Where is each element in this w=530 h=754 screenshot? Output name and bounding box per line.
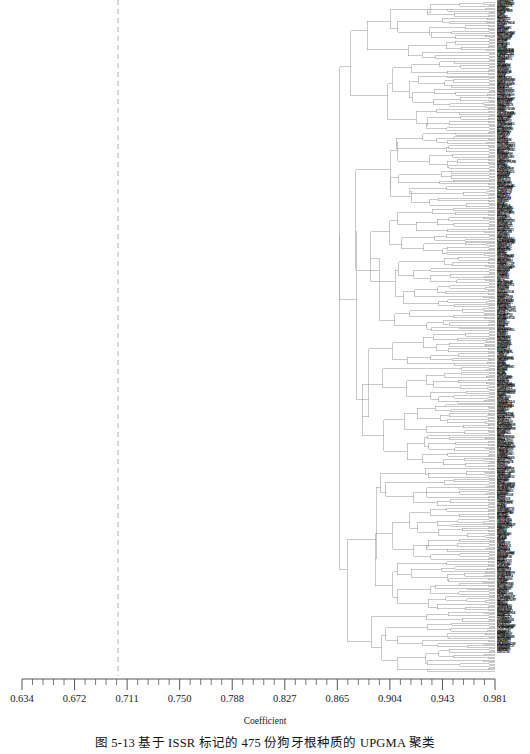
axis-tick-label: 0.981: [483, 693, 507, 704]
figure-caption: 图 5-13 基于 ISSR 标记的 475 份狗牙根种质的 UPGMA 聚类: [0, 732, 530, 751]
leaf-label-column: 9S2KJ39U13X6FB3LPFR9JEJG9M9H7E6V99X0EAWV…: [497, 0, 530, 678]
axis-tick-label: 0.634: [10, 693, 34, 704]
axis-tick-label: 0.788: [220, 693, 244, 704]
axis-tick-label: 0.750: [168, 693, 192, 704]
axis-tick-label: 0.711: [115, 693, 138, 704]
axis-ticks: [0, 678, 530, 694]
axis-tick-label: 0.672: [63, 693, 87, 704]
axis-title-coefficient: Coefficient: [0, 716, 530, 726]
figure-page: 9S2KJ39U13X6FB3LPFR9JEJG9M9H7E6V99X0EAWV…: [0, 0, 530, 754]
dendrogram-plot: [0, 0, 530, 678]
axis-tick-label: 0.827: [273, 693, 297, 704]
leaf-label: D9R1DTXK: [497, 652, 530, 654]
axis-tick-label: 0.865: [326, 693, 350, 704]
axis-tick-label: 0.904: [378, 693, 402, 704]
axis-tick-label: 0.943: [431, 693, 455, 704]
dendrogram-svg: [0, 0, 530, 678]
